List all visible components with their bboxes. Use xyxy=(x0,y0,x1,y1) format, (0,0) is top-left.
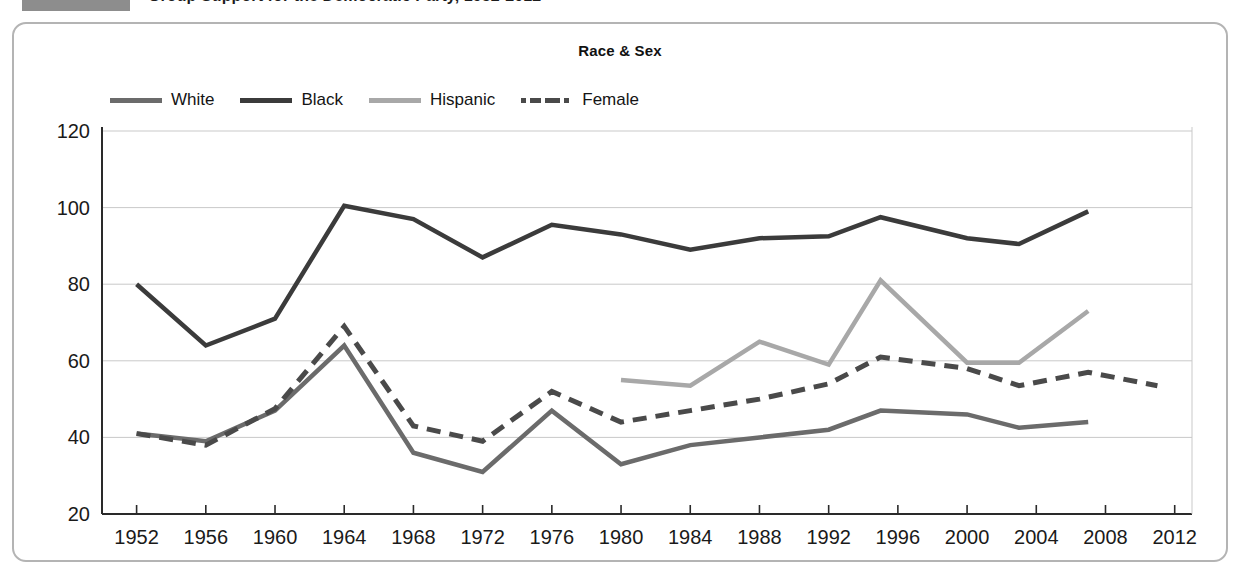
y-tick-label: 40 xyxy=(68,426,90,448)
y-tick-label: 120 xyxy=(57,120,90,142)
x-tick-label: 2012 xyxy=(1152,526,1197,548)
x-tick-label: 1968 xyxy=(391,526,436,548)
x-tick-label: 1960 xyxy=(253,526,298,548)
y-tick-label: 100 xyxy=(57,197,90,219)
x-tick-label: 2008 xyxy=(1083,526,1128,548)
x-tick-label: 1964 xyxy=(322,526,367,548)
header-color-swatch xyxy=(22,0,130,11)
x-tick-label: 1976 xyxy=(530,526,575,548)
page-header: Group Support for the Democratic Party, … xyxy=(0,0,1243,14)
series-line-hispanic xyxy=(621,280,1088,385)
y-tick-label: 60 xyxy=(68,350,90,372)
line-chart-svg: 2040608010012019521956196019641968197219… xyxy=(14,24,1230,564)
x-tick-label: 1952 xyxy=(114,526,159,548)
x-tick-label: 1988 xyxy=(737,526,782,548)
x-tick-label: 1956 xyxy=(184,526,229,548)
series-line-female xyxy=(137,326,1158,445)
x-tick-label: 2004 xyxy=(1014,526,1059,548)
y-tick-label: 20 xyxy=(68,503,90,525)
x-tick-label: 1984 xyxy=(668,526,713,548)
y-tick-label: 80 xyxy=(68,273,90,295)
x-tick-label: 2000 xyxy=(945,526,990,548)
x-tick-label: 1992 xyxy=(806,526,851,548)
chart-panel: Race & Sex WhiteBlackHispanicFemale 2040… xyxy=(12,22,1228,562)
x-tick-label: 1980 xyxy=(599,526,644,548)
x-tick-label: 1972 xyxy=(460,526,505,548)
plot-area: 2040608010012019521956196019641968197219… xyxy=(14,24,1230,564)
header-title: Group Support for the Democratic Party, … xyxy=(148,0,541,5)
x-tick-label: 1996 xyxy=(876,526,921,548)
series-line-black xyxy=(137,206,1089,346)
